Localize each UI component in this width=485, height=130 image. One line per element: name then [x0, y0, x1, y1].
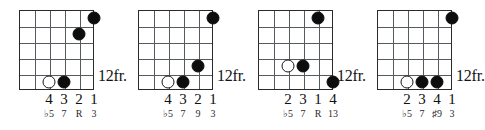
interval-label: 9: [196, 109, 201, 119]
fret-line: [259, 27, 332, 28]
interval-label: 7: [420, 109, 425, 119]
fret-line: [259, 59, 332, 60]
string-line: [289, 11, 290, 89]
fingered-note-dot: [312, 12, 325, 25]
interval-label: R: [315, 109, 322, 119]
string-line: [274, 11, 275, 89]
interval-label: 13: [328, 109, 338, 119]
finger-number-label: 3: [299, 92, 307, 107]
chord-diagram: 12fr.4321♭57R3: [0, 0, 119, 130]
fingered-note-dot: [207, 12, 220, 25]
interval-label: 3: [450, 109, 455, 119]
fret-line: [378, 43, 451, 44]
fingered-note-dot: [88, 12, 101, 25]
finger-number-label: 1: [314, 92, 322, 107]
fret-line: [139, 43, 212, 44]
fret-line: [378, 27, 451, 28]
finger-number-label: 3: [60, 92, 68, 107]
interval-label: 7: [301, 109, 306, 119]
string-line: [80, 11, 81, 89]
string-line: [154, 11, 155, 89]
interval-label: 3: [211, 109, 216, 119]
interval-label: ♭5: [283, 109, 293, 119]
fret-line: [139, 75, 212, 76]
fret-line: [20, 75, 93, 76]
open-note-dot: [282, 60, 295, 73]
finger-number-label: 3: [418, 92, 426, 107]
finger-number-label: 2: [194, 92, 202, 107]
open-note-dot: [401, 76, 414, 89]
fret-line: [20, 59, 93, 60]
finger-number-label-row: 4321: [19, 92, 94, 108]
finger-number-label: 1: [90, 92, 98, 107]
fingered-note-dot: [58, 76, 71, 89]
finger-number-label: 2: [75, 92, 83, 107]
fret-line: [378, 59, 451, 60]
grid-border: [19, 10, 94, 90]
interval-label: ♭5: [44, 109, 54, 119]
finger-number-label: 1: [209, 92, 217, 107]
fret-position-label: 12fr.: [456, 68, 485, 84]
interval-label: 7: [181, 109, 186, 119]
fingered-note-dot: [73, 28, 86, 41]
interval-label: ♯9: [432, 109, 442, 119]
fingered-note-dot: [297, 60, 310, 73]
string-line: [35, 11, 36, 89]
finger-number-label: 4: [164, 92, 172, 107]
fingered-note-dot: [192, 60, 205, 73]
finger-number-label: 2: [403, 92, 411, 107]
interval-label-row: ♭57♯93: [377, 109, 452, 122]
fretboard-grid: [377, 10, 452, 90]
fretboard-grid: [258, 10, 333, 90]
fret-line: [259, 75, 332, 76]
finger-number-label: 2: [284, 92, 292, 107]
interval-label: 3: [92, 109, 97, 119]
open-note-dot: [43, 76, 56, 89]
interval-label-row: ♭57R13: [258, 109, 333, 122]
interval-label: ♭5: [402, 109, 412, 119]
grid-border: [138, 10, 213, 90]
string-line: [393, 11, 394, 89]
fretboard-grid: [138, 10, 213, 90]
finger-number-label: 3: [179, 92, 187, 107]
chord-diagram: 12fr.2341♭57♯93: [358, 0, 477, 130]
interval-label-row: ♭5793: [138, 109, 213, 122]
fret-line: [139, 27, 212, 28]
finger-number-label: 4: [45, 92, 53, 107]
open-note-dot: [162, 76, 175, 89]
fingered-note-dot: [416, 76, 429, 89]
finger-number-label-row: 2341: [377, 92, 452, 108]
string-line: [199, 11, 200, 89]
fret-line: [20, 43, 93, 44]
chord-diagram: 12fr.4321♭5793: [119, 0, 238, 130]
finger-number-label: 1: [448, 92, 456, 107]
interval-label: 7: [62, 109, 67, 119]
finger-number-label-row: 2314: [258, 92, 333, 108]
fingered-note-dot: [431, 76, 444, 89]
chord-diagram: 12fr.2314♭57R13: [239, 0, 358, 130]
finger-number-label: 4: [329, 92, 337, 107]
fretboard-grid: [19, 10, 94, 90]
fret-line: [259, 43, 332, 44]
interval-label: ♭5: [163, 109, 173, 119]
interval-label: R: [76, 109, 83, 119]
finger-number-label: 4: [433, 92, 441, 107]
finger-number-label-row: 4321: [138, 92, 213, 108]
fingered-note-dot: [446, 12, 459, 25]
interval-label-row: ♭57R3: [19, 109, 94, 122]
string-line: [304, 11, 305, 89]
fingered-note-dot: [177, 76, 190, 89]
